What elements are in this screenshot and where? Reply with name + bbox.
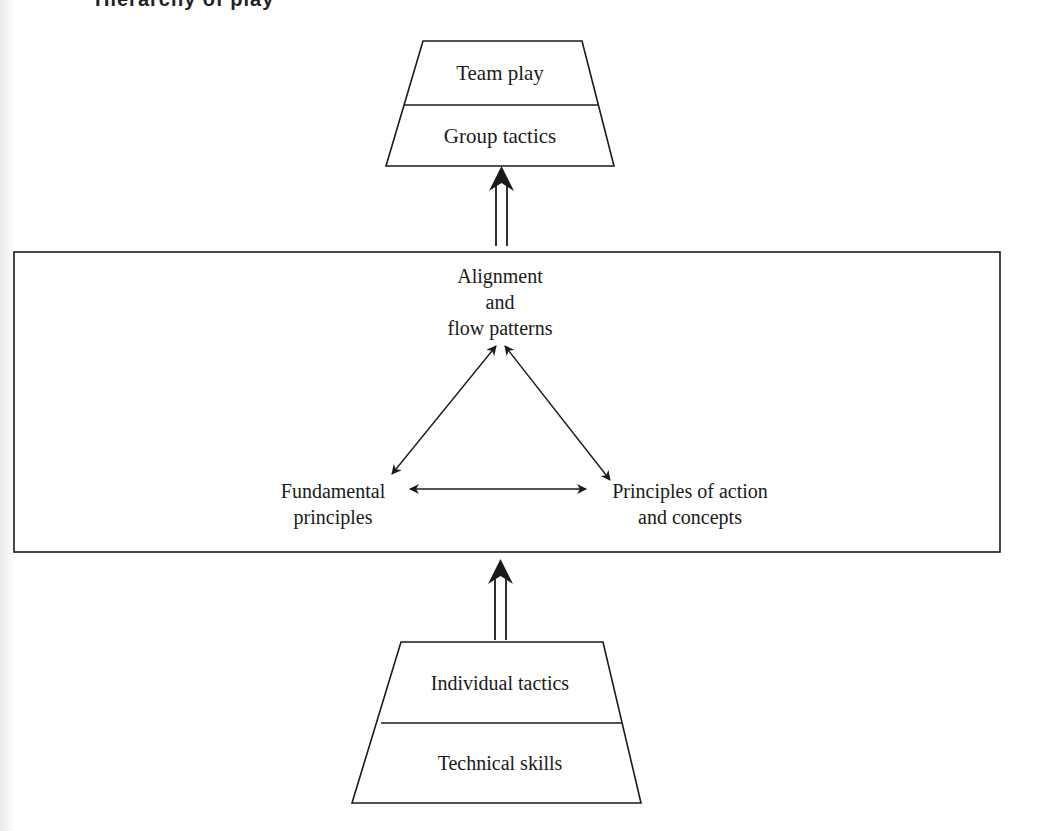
double-arrow-up-upper (489, 166, 514, 246)
label-individual-tactics: Individual tactics (400, 670, 600, 696)
node-right-line2: and concepts (580, 504, 800, 530)
node-left-line1: Fundamental (233, 478, 433, 504)
label-technical-skills: Technical skills (400, 750, 600, 776)
double-arrow-up-lower (488, 559, 513, 640)
relationship-arrows (392, 346, 610, 489)
bottom-trapezoid (352, 642, 641, 803)
arrow-top-left (392, 346, 496, 474)
arrowhead-icon (488, 559, 513, 584)
node-left-line2: principles (233, 504, 433, 530)
node-top-line3: flow patterns (400, 315, 600, 341)
node-top-line2: and (400, 289, 600, 315)
node-top-line1: Alignment (400, 263, 600, 289)
node-right-line1: Principles of action (580, 478, 800, 504)
label-team-play: Team play (400, 60, 600, 86)
arrowhead-icon (489, 166, 514, 191)
label-group-tactics: Group tactics (400, 123, 600, 149)
arrow-top-right (505, 346, 610, 480)
